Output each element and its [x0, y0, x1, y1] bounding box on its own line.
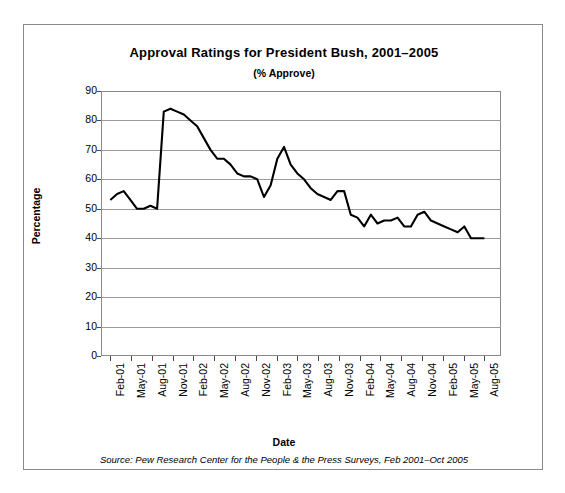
x-tick-label: Nov-01: [177, 363, 189, 397]
x-tick-mark: [422, 356, 423, 361]
y-tick-label: 60: [57, 172, 97, 184]
x-tick-label: Nov-04: [426, 363, 438, 397]
series-layer: [101, 91, 501, 356]
y-axis-title: Percentage: [30, 156, 42, 276]
x-tick-mark: [401, 356, 402, 361]
x-tick-label: Aug-01: [156, 363, 168, 397]
y-tick-label: 50: [57, 202, 97, 214]
x-tick-mark: [152, 356, 153, 361]
y-tick-mark: [97, 356, 101, 357]
x-tick-label: Aug-05: [488, 363, 500, 397]
x-tick-label: May-01: [135, 363, 147, 398]
x-tick-label: Feb-01: [114, 363, 126, 396]
x-tick-label: Nov-02: [260, 363, 272, 397]
line-series-approve: [110, 109, 484, 239]
x-tick-label: Aug-04: [405, 363, 417, 397]
y-tick-label: 70: [57, 143, 97, 155]
x-tick-mark: [131, 356, 132, 361]
y-tick-label: 10: [57, 320, 97, 332]
chart-title: Approval Ratings for President Bush, 200…: [24, 45, 544, 60]
x-tick-mark: [443, 356, 444, 361]
x-tick-mark: [360, 356, 361, 361]
x-tick-label: Aug-03: [322, 363, 334, 397]
x-tick-mark: [256, 356, 257, 361]
x-tick-label: Feb-05: [447, 363, 459, 396]
x-tick-mark: [235, 356, 236, 361]
x-tick-label: Feb-03: [281, 363, 293, 396]
plot-area: 0102030405060708090 Feb-01May-01Aug-01No…: [101, 91, 501, 356]
x-tick-mark: [297, 356, 298, 361]
x-tick-label: May-02: [218, 363, 230, 398]
x-axis-title: Date: [24, 436, 544, 448]
x-tick-label: Feb-02: [197, 363, 209, 396]
x-tick-mark: [484, 356, 485, 361]
x-tick-mark: [173, 356, 174, 361]
x-tick-mark: [380, 356, 381, 361]
y-tick-label: 20: [57, 290, 97, 302]
x-tick-label: Nov-03: [343, 363, 355, 397]
x-tick-mark: [193, 356, 194, 361]
x-tick-mark: [339, 356, 340, 361]
y-tick-label: 40: [57, 231, 97, 243]
x-tick-mark: [318, 356, 319, 361]
source-note: Source: Pew Research Center for the Peop…: [24, 454, 544, 465]
x-tick-mark: [277, 356, 278, 361]
x-tick-mark: [464, 356, 465, 361]
y-tick-label: 90: [57, 84, 97, 96]
x-tick-label: May-05: [468, 363, 480, 398]
y-tick-label: 0: [57, 349, 97, 361]
y-tick-label: 30: [57, 261, 97, 273]
y-tick-label: 80: [57, 113, 97, 125]
x-tick-label: May-03: [301, 363, 313, 398]
x-tick-label: Aug-02: [239, 363, 251, 397]
x-tick-label: May-04: [384, 363, 396, 398]
x-tick-mark: [110, 356, 111, 361]
x-tick-mark: [214, 356, 215, 361]
chart-subtitle: (% Approve): [24, 67, 544, 79]
chart-frame: Approval Ratings for President Bush, 200…: [23, 24, 543, 470]
x-tick-label: Feb-04: [364, 363, 376, 396]
